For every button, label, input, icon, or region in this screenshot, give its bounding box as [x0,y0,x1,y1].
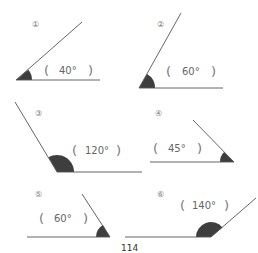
angle-4-number: ④ [155,109,162,118]
angle-2-answer: 60° [182,66,200,77]
angle-3-close-paren: ) [116,143,121,158]
angle-1-number: ① [32,20,39,29]
angle-2-close-paren: ) [211,64,216,79]
angle-2-number: ② [157,20,164,29]
angle-1-close-paren: ) [88,63,93,78]
angle-5-answer: 60° [54,213,72,224]
angle-5-open-paren: ( [39,211,44,226]
angle-worksheet: ① ( 40° ) ② ( 60° ) ③ ( 120° ) ④ ( 45° ) [0,0,258,253]
angle-1: ① ( 40° ) [16,20,100,80]
angle-6: ⑥ ( 140° ) [125,190,256,237]
angle-2-open-paren: ( [166,64,171,79]
angle-6-close-paren: ) [224,198,229,213]
angle-3: ③ ( 120° ) [15,102,142,172]
angle-5: ⑤ ( 60° ) [27,190,110,237]
page-number: 114 [121,243,138,253]
angle-2: ② ( 60° ) [139,13,223,88]
angle-6-open-paren: ( [180,198,185,213]
angle-3-answer: 120° [85,145,109,156]
angle-6-answer: 140° [192,200,216,211]
angle-3-number: ③ [35,109,42,118]
angle-4-answer: 45° [168,143,186,154]
angle-6-side-ray [211,198,256,237]
angle-3-open-paren: ( [72,143,77,158]
angle-5-number: ⑤ [35,190,42,199]
angle-4: ④ ( 45° ) [150,109,234,162]
angle-1-answer: 40° [59,65,77,76]
angle-6-number: ⑥ [157,190,164,199]
angle-4-arc-marker [220,152,234,162]
angle-2-arc-marker [139,74,155,88]
angle-6-arc-marker [196,222,223,237]
angle-4-close-paren: ) [197,141,202,156]
angle-5-close-paren: ) [83,211,88,226]
angle-1-open-paren: ( [44,63,49,78]
angle-4-open-paren: ( [153,141,158,156]
